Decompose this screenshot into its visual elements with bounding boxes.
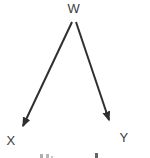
node-label-y: Y (119, 130, 128, 145)
diagram-svg: W X Y (0, 0, 150, 158)
causal-diagram: W X Y (0, 0, 150, 158)
arrow-w-to-x (23, 22, 72, 126)
arrow-w-to-y (76, 22, 109, 120)
clipped-caption-fragment (40, 153, 98, 158)
node-label-w: W (68, 1, 81, 16)
node-label-x: X (6, 133, 15, 148)
